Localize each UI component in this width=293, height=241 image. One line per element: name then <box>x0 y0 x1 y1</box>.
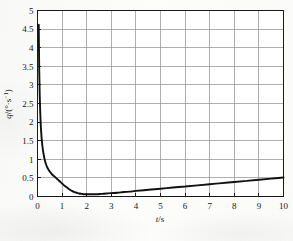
y-tick-label: 5 <box>29 6 34 16</box>
y-tick-label: 3 <box>29 80 34 90</box>
x-tick-label: 5 <box>158 201 163 211</box>
y-tick-label: 0.5 <box>22 173 34 183</box>
chart-plot: 00.511.522.533.544.55 012345678910 t/s q… <box>0 0 293 241</box>
x-tick-label: 0 <box>35 201 40 211</box>
x-tick-label: 4 <box>134 201 139 211</box>
y-axis-tick-labels: 00.511.522.533.544.55 <box>22 6 34 202</box>
x-tick-label: 10 <box>279 201 289 211</box>
x-axis-tick-labels: 012345678910 <box>35 201 288 211</box>
x-tick-label: 9 <box>257 201 262 211</box>
y-tick-label: 0 <box>29 192 34 202</box>
y-tick-label: 3.5 <box>22 62 34 72</box>
y-tick-label: 1 <box>29 155 34 165</box>
y-tick-label: 4.5 <box>22 24 34 34</box>
x-axis-title: t/s <box>156 214 165 224</box>
x-tick-label: 8 <box>232 201 237 211</box>
y-tick-label: 1.5 <box>22 136 34 146</box>
x-tick-label: 7 <box>207 201 212 211</box>
y-tick-label: 2.5 <box>22 99 34 109</box>
y-tick-label: 4 <box>29 43 34 53</box>
x-tick-label: 1 <box>60 201 65 211</box>
x-tick-label: 2 <box>84 201 89 211</box>
figure-container: 00.511.522.533.544.55 012345678910 t/s q… <box>0 0 293 241</box>
y-axis-title: q/(°·s−1) <box>2 89 13 119</box>
x-tick-label: 3 <box>109 201 114 211</box>
y-tick-label: 2 <box>29 117 34 127</box>
x-tick-label: 6 <box>183 201 188 211</box>
